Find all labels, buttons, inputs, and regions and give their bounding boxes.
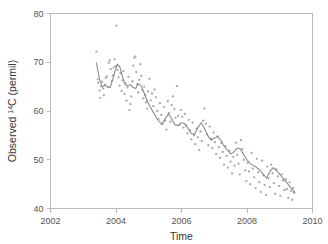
data-point bbox=[171, 104, 173, 106]
data-point bbox=[235, 142, 237, 144]
data-point bbox=[237, 163, 239, 165]
data-point bbox=[174, 117, 176, 119]
data-point bbox=[181, 116, 183, 118]
data-point bbox=[291, 199, 293, 201]
y-tick-label: 60 bbox=[33, 106, 43, 116]
data-point bbox=[97, 82, 99, 84]
data-point bbox=[202, 120, 204, 122]
data-point bbox=[98, 89, 100, 91]
data-point bbox=[172, 95, 174, 97]
data-point bbox=[261, 160, 263, 162]
x-tick-label: 2010 bbox=[302, 216, 322, 226]
data-point bbox=[153, 88, 155, 90]
data-point bbox=[123, 93, 125, 95]
data-point bbox=[131, 80, 133, 82]
scatter-plot: 405060708020022004200620082010TimeObserv… bbox=[0, 0, 328, 244]
data-point bbox=[290, 190, 292, 192]
data-point bbox=[148, 78, 150, 80]
data-point bbox=[191, 122, 193, 124]
data-point bbox=[109, 59, 111, 61]
data-point bbox=[205, 123, 207, 125]
data-point bbox=[137, 91, 139, 93]
data-point bbox=[257, 171, 259, 173]
data-point bbox=[130, 95, 132, 97]
data-point bbox=[106, 75, 108, 77]
data-point bbox=[108, 62, 110, 64]
data-point bbox=[245, 180, 247, 182]
data-point bbox=[283, 189, 285, 191]
data-point bbox=[177, 115, 179, 117]
data-point bbox=[146, 107, 148, 109]
data-point bbox=[139, 63, 141, 65]
data-point bbox=[249, 183, 251, 185]
data-point bbox=[212, 131, 214, 133]
data-point bbox=[258, 181, 260, 183]
data-point bbox=[241, 148, 243, 150]
plot-frame bbox=[51, 14, 313, 209]
data-point bbox=[201, 140, 203, 142]
data-point bbox=[264, 184, 266, 186]
data-point bbox=[101, 81, 103, 83]
data-point bbox=[243, 159, 245, 161]
data-point bbox=[209, 125, 211, 127]
x-tick-label: 2008 bbox=[237, 216, 257, 226]
data-point bbox=[252, 167, 254, 169]
data-point bbox=[142, 97, 144, 99]
data-point bbox=[155, 96, 157, 98]
y-tick-label: 50 bbox=[33, 155, 43, 165]
data-point bbox=[274, 193, 276, 195]
data-point bbox=[278, 185, 280, 187]
data-point bbox=[223, 163, 225, 165]
data-point bbox=[273, 182, 275, 184]
data-point bbox=[271, 172, 273, 174]
data-point bbox=[147, 90, 149, 92]
data-point bbox=[269, 186, 271, 188]
data-point bbox=[165, 128, 167, 130]
data-point bbox=[116, 25, 118, 27]
data-point bbox=[219, 157, 221, 159]
data-point bbox=[160, 114, 162, 116]
data-point bbox=[211, 147, 213, 149]
data-point bbox=[125, 100, 127, 102]
data-point bbox=[222, 151, 224, 153]
data-point bbox=[126, 86, 128, 88]
data-point bbox=[127, 76, 129, 78]
data-point bbox=[233, 164, 235, 166]
y-tick-label: 40 bbox=[33, 204, 43, 214]
data-point bbox=[190, 138, 192, 140]
trend-line bbox=[96, 63, 294, 192]
data-point bbox=[163, 106, 165, 108]
data-point bbox=[132, 65, 134, 67]
data-point bbox=[97, 78, 99, 80]
data-point bbox=[114, 58, 116, 60]
data-point bbox=[218, 146, 220, 148]
data-point bbox=[227, 166, 229, 168]
data-point bbox=[215, 153, 217, 155]
data-point bbox=[95, 50, 97, 52]
trend-line-group bbox=[96, 63, 294, 192]
data-point bbox=[232, 156, 234, 158]
data-point bbox=[270, 163, 272, 165]
data-point bbox=[256, 158, 258, 160]
y-axis-title-superscript: 14 bbox=[7, 106, 14, 114]
data-point bbox=[265, 194, 267, 196]
y-tick-label: 70 bbox=[33, 57, 43, 67]
data-point bbox=[288, 181, 290, 183]
data-point bbox=[240, 139, 242, 141]
data-point bbox=[186, 132, 188, 134]
data-point bbox=[198, 149, 200, 151]
x-tick-label: 2006 bbox=[171, 216, 191, 226]
data-point bbox=[184, 113, 186, 115]
data-point bbox=[226, 155, 228, 157]
data-point bbox=[118, 85, 120, 87]
data-point bbox=[103, 94, 105, 96]
data-point bbox=[231, 172, 233, 174]
data-point bbox=[197, 136, 199, 138]
data-point bbox=[150, 99, 152, 101]
data-point bbox=[182, 126, 184, 128]
y-axis-title-suffix: C (permil) bbox=[6, 60, 18, 106]
x-tick-label: 2002 bbox=[40, 216, 60, 226]
data-point bbox=[113, 66, 115, 68]
data-point bbox=[229, 161, 231, 163]
axis-labels-group: 405060708020022004200620082010TimeObserv… bbox=[6, 9, 323, 242]
